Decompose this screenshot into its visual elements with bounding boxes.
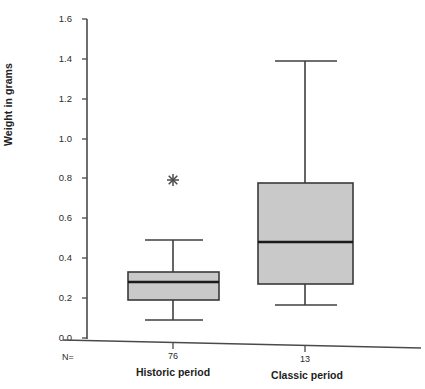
category-n-classic: 13 bbox=[300, 354, 310, 364]
box-iqr bbox=[258, 183, 353, 284]
box-plot-historic-period bbox=[128, 174, 219, 320]
box-plot-classic-period bbox=[258, 61, 353, 305]
category-n-historic: 76 bbox=[168, 351, 178, 361]
x-axis-line bbox=[63, 340, 421, 348]
n-prefix-label: N= bbox=[62, 352, 74, 362]
category-label-classic: Classic period bbox=[271, 369, 343, 381]
category-label-historic: Historic period bbox=[136, 366, 210, 378]
outlier-asterisk-marker bbox=[167, 174, 179, 186]
box-iqr bbox=[128, 272, 219, 300]
plot-area bbox=[0, 0, 425, 389]
box-plot-chart: Weight in grams 1.6 1.4 1.2 1.0 0.8 0.6 … bbox=[0, 0, 425, 389]
